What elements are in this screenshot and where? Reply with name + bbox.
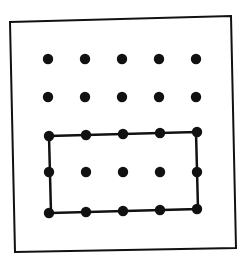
grid-dot (81, 167, 91, 177)
grid-dot (81, 130, 91, 140)
grid-dot (44, 131, 54, 141)
grid-dot (192, 127, 202, 137)
grid-dot (43, 92, 53, 102)
grid-dot (118, 129, 128, 139)
grid-dot (44, 167, 54, 177)
grid-dot (191, 92, 201, 102)
grid-dot (154, 92, 164, 102)
grid-dot (43, 54, 53, 64)
grid-dot (154, 54, 164, 64)
grid-dot (80, 54, 90, 64)
grid-dot (118, 206, 128, 216)
grid-dot (80, 92, 90, 102)
grid-dot (117, 92, 127, 102)
grid-dot (155, 205, 165, 215)
grid-dot (191, 54, 201, 64)
grid-dot (192, 204, 202, 214)
grid-dot (44, 208, 54, 218)
geoboard-diagram (0, 0, 244, 257)
grid-dot (192, 167, 202, 177)
grid-dot (117, 54, 127, 64)
grid-dot (155, 167, 165, 177)
grid-dot (118, 167, 128, 177)
grid-dot (155, 128, 165, 138)
grid-dot (81, 207, 91, 217)
